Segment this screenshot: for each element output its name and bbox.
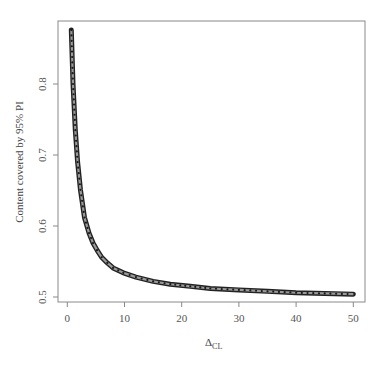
data-point — [169, 283, 171, 285]
data-point — [88, 232, 90, 234]
data-point — [72, 88, 74, 90]
data-point — [249, 289, 251, 291]
data-point — [141, 277, 143, 279]
data-point — [163, 282, 165, 284]
data-point — [112, 267, 114, 269]
content-coverage-chart: 01020304050 0.50.60.70.8 Content covered… — [0, 0, 384, 365]
data-point — [78, 178, 80, 180]
data-point — [72, 78, 74, 80]
data-point — [194, 286, 196, 288]
data-point — [158, 281, 160, 283]
y-tick-label: 0.8 — [36, 77, 48, 91]
data-point — [174, 284, 176, 286]
data-point — [179, 284, 181, 286]
data-point — [73, 103, 75, 105]
data-point — [146, 279, 148, 281]
data-point — [80, 194, 82, 196]
data-point — [86, 227, 88, 229]
data-point — [90, 237, 92, 239]
y-axis: 0.50.60.70.8 — [36, 77, 58, 304]
data-point — [199, 286, 201, 288]
x-tick-label: 0 — [65, 312, 71, 324]
x-axis-title: ΔCL — [205, 336, 222, 351]
x-tick-label: 10 — [119, 312, 131, 324]
data-point — [74, 119, 76, 121]
y-tick-label: 0.6 — [36, 219, 48, 233]
y-axis-title: Content covered by 95% PI — [13, 101, 25, 223]
data-point — [92, 242, 94, 244]
data-point — [301, 292, 303, 294]
data-point — [226, 288, 228, 290]
data-point — [324, 292, 326, 294]
data-point — [81, 200, 83, 202]
data-point — [71, 45, 73, 47]
data-point — [266, 290, 268, 292]
x-tick-label: 20 — [176, 312, 188, 324]
data-point — [284, 291, 286, 293]
data-series — [70, 29, 353, 295]
data-point — [215, 288, 217, 290]
y-tick-label: 0.7 — [36, 148, 48, 162]
x-axis-title-main: Δ — [205, 336, 212, 348]
x-axis-title-subscript: CL — [212, 342, 222, 351]
x-tick-label: 50 — [348, 312, 360, 324]
data-point — [329, 292, 331, 294]
data-point — [232, 289, 234, 291]
data-point — [77, 167, 79, 169]
data-point — [85, 222, 87, 224]
data-point — [73, 109, 75, 111]
x-tick-label: 40 — [291, 312, 303, 324]
data-point — [71, 67, 73, 69]
x-axis: 01020304050 — [65, 302, 360, 324]
data-point — [73, 98, 75, 100]
data-point — [312, 292, 314, 294]
data-point — [76, 161, 78, 163]
data-curve-fill — [71, 30, 353, 294]
data-point — [71, 51, 73, 53]
data-point — [318, 292, 320, 294]
data-point — [129, 274, 131, 276]
data-point — [79, 189, 81, 191]
data-point — [209, 287, 211, 289]
data-point — [71, 61, 73, 63]
data-point — [117, 269, 119, 271]
data-point — [221, 288, 223, 290]
data-point — [76, 156, 78, 158]
data-point — [261, 290, 263, 292]
data-point — [70, 34, 72, 36]
data-point — [72, 93, 74, 95]
data-point — [189, 285, 191, 287]
data-point — [70, 29, 72, 31]
data-point — [335, 293, 337, 295]
data-point — [184, 285, 186, 287]
data-point — [135, 276, 137, 278]
data-point — [101, 256, 103, 258]
y-tick-label: 0.5 — [36, 290, 48, 304]
data-point — [79, 183, 81, 185]
data-point — [122, 272, 124, 274]
data-curve-outline — [71, 30, 353, 294]
data-point — [152, 280, 154, 282]
data-point — [341, 293, 343, 295]
data-point — [72, 72, 74, 74]
data-point — [244, 289, 246, 291]
data-point — [83, 216, 85, 218]
data-point — [255, 290, 257, 292]
data-point — [74, 129, 76, 131]
data-point — [75, 134, 77, 136]
data-point — [295, 292, 297, 294]
data-point — [96, 249, 98, 251]
data-point — [75, 145, 77, 147]
data-point — [71, 40, 73, 42]
data-point — [106, 262, 108, 264]
data-point — [272, 291, 274, 293]
data-point — [72, 83, 74, 85]
data-point — [204, 287, 206, 289]
data-point — [238, 289, 240, 291]
data-point — [73, 114, 75, 116]
data-point — [82, 205, 84, 207]
data-point — [306, 292, 308, 294]
x-tick-label: 30 — [233, 312, 245, 324]
data-point — [289, 291, 291, 293]
data-point — [83, 211, 85, 213]
